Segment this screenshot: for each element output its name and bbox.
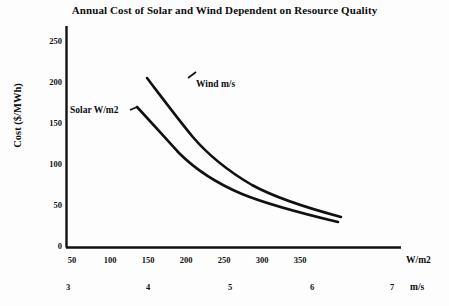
plot-area [0,0,449,306]
leader-line-wind [188,72,196,78]
leader-line-solar [130,107,137,110]
chart-container: Annual Cost of Solar and Wind Dependent … [0,0,449,306]
series-line-solar [137,107,338,222]
